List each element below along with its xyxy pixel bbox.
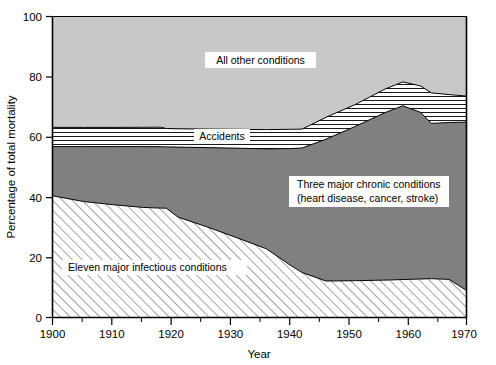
y-tick-label: 0 (36, 312, 42, 324)
x-tick-label: 1910 (99, 328, 125, 340)
x-tick-label: 1970 (451, 328, 477, 340)
y-axis-title: Percentage of total mortality (5, 95, 17, 238)
x-tick-label: 1930 (218, 328, 244, 340)
annotation-label: Eleven major infectious conditions (68, 261, 227, 273)
annotation-label-detail: (heart disease, cancer, stroke) (297, 192, 438, 204)
annotation-label: Three major chronic conditions (297, 178, 441, 190)
annotation-all-other-conditions: All other conditions (205, 52, 316, 68)
x-tick-label: 1900 (40, 328, 66, 340)
y-tick-label: 40 (29, 192, 42, 204)
annotation-accidents: Accidents (194, 129, 250, 143)
x-axis-ticks (53, 318, 467, 325)
y-tick-label: 80 (29, 71, 42, 83)
annotation-eleven-major-infectious-conditions: Eleven major infectious conditions (62, 260, 247, 275)
x-axis-tick-labels: 1900 1910 1920 1930 1940 1950 1960 1970 (40, 328, 477, 340)
x-tick-label: 1940 (277, 328, 303, 340)
x-tick-label: 1950 (336, 328, 362, 340)
mortality-area-chart: 100 80 60 40 20 0 1900 1910 1920 1930 19… (0, 0, 496, 365)
chart-figure: 100 80 60 40 20 0 1900 1910 1920 1930 19… (0, 0, 496, 365)
y-tick-label: 100 (23, 11, 42, 23)
x-tick-label: 1960 (396, 328, 422, 340)
annotation-three-major-chronic-conditions: Three major chronic conditions (heart di… (289, 176, 449, 207)
annotation-label: Accidents (199, 130, 245, 142)
x-tick-label: 1920 (158, 328, 184, 340)
y-tick-label: 20 (29, 252, 42, 264)
y-axis-ticks (46, 17, 52, 318)
y-axis-tick-labels: 100 80 60 40 20 0 (23, 11, 42, 324)
y-tick-label: 60 (29, 131, 42, 143)
x-axis-title: Year (247, 348, 270, 360)
annotation-label: All other conditions (216, 54, 305, 66)
